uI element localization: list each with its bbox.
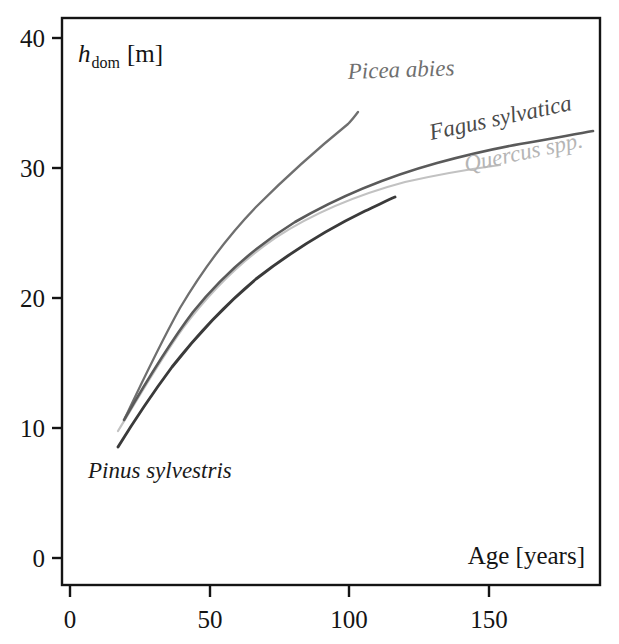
- curve-label-picea-abies: Picea abies: [346, 55, 455, 84]
- y-axis-title-unit: [m]: [127, 40, 163, 67]
- x-tick-label-150: 150: [470, 606, 508, 633]
- chart-svg: 40 30 20 10 0 0 50 100 150 hdom[m] Age: [0, 0, 619, 644]
- curve-pinus-sylvestris: [118, 197, 395, 447]
- curve-label-pinus-sylvestris: Pinus sylvestris: [87, 458, 232, 483]
- y-tick-label-30: 30: [20, 155, 45, 182]
- y-axis-title: hdom[m]: [78, 40, 163, 71]
- curve-label-group: Picea abies Fagus sylvatica Quercus spp.…: [87, 55, 585, 483]
- y-axis-ticks: [52, 38, 62, 558]
- y-tick-label-20: 20: [20, 285, 45, 312]
- x-axis-tick-labels: 0 50 100 150: [64, 606, 508, 633]
- y-axis-title-subscript: dom: [92, 54, 121, 71]
- x-axis-ticks: [70, 585, 489, 597]
- curve-quercus-spp: [118, 165, 500, 431]
- y-tick-label-40: 40: [20, 25, 45, 52]
- x-tick-label-50: 50: [198, 606, 223, 633]
- chart-figure: 40 30 20 10 0 0 50 100 150 hdom[m] Age: [0, 0, 619, 644]
- y-tick-label-10: 10: [20, 415, 45, 442]
- x-tick-label-0: 0: [64, 606, 77, 633]
- x-tick-label-100: 100: [330, 606, 368, 633]
- x-axis-title: Age [years]: [468, 542, 585, 569]
- svg-text:hdom[m]: hdom[m]: [78, 40, 163, 71]
- y-axis-title-symbol: h: [78, 40, 91, 67]
- y-tick-label-0: 0: [33, 545, 46, 572]
- y-axis-tick-labels: 40 30 20 10 0: [20, 25, 45, 572]
- curve-fagus-sylvatica: [124, 131, 593, 420]
- curve-label-quercus-spp: Quercus spp.: [462, 127, 585, 177]
